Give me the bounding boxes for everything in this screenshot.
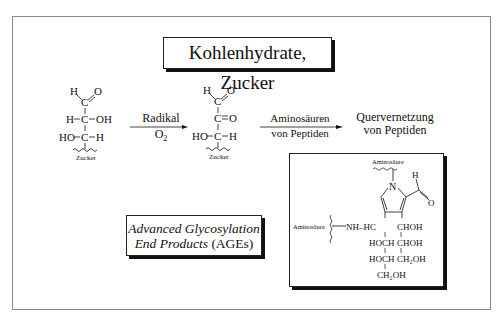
svg-text:C: C (81, 131, 88, 143)
svg-text:H: H (229, 130, 237, 142)
svg-text:O: O (227, 84, 235, 96)
result-label: Quervernetzung von Peptiden (350, 111, 440, 137)
product-structure: Aminosäure N H O Aminosäure NH–HC CHOH C… (289, 153, 444, 287)
svg-text:HOCH: HOCH (369, 238, 395, 248)
svg-text:C: C (81, 113, 88, 125)
arrow2-bottom-label: von Peptiden (262, 127, 338, 139)
svg-text:H: H (412, 170, 419, 180)
arrow1-bottom-label: O2 (135, 127, 187, 143)
molecule-sugar: H C O H C OH HO C H Zucker (55, 84, 125, 164)
ages-line2-italic: End Products (135, 236, 208, 251)
svg-text:C: C (214, 95, 221, 107)
svg-text:C: C (214, 112, 221, 124)
svg-text:OH: OH (96, 113, 112, 125)
svg-text:CHOH: CHOH (397, 238, 423, 248)
svg-text:CHOH: CHOH (397, 222, 423, 232)
svg-text:CH₂OH: CH₂OH (377, 270, 406, 280)
svg-text:HO: HO (59, 131, 75, 143)
svg-text:C: C (81, 96, 88, 108)
svg-text:Zucker: Zucker (76, 154, 96, 162)
svg-text:NH–HC: NH–HC (346, 222, 376, 232)
molecule-dicarbonyl: H C O C O HO C H Zucker (188, 84, 258, 164)
title-box: Kohlenhydrate, Zucker (163, 37, 332, 69)
svg-text:Aminosäure: Aminosäure (293, 223, 325, 230)
svg-text:H: H (96, 131, 104, 143)
svg-text:Aminosäure: Aminosäure (372, 158, 404, 165)
svg-text:O: O (229, 112, 237, 124)
svg-text:O: O (94, 85, 102, 97)
svg-text:O: O (428, 198, 435, 208)
ages-box: Advanced Glycosylation End Products (AGE… (126, 215, 262, 256)
ages-line2-plain: (AGEs) (208, 236, 253, 251)
svg-text:HO: HO (192, 130, 208, 142)
ages-line1: Advanced Glycosylation (128, 221, 260, 236)
svg-text:CH₂OH: CH₂OH (397, 254, 426, 264)
svg-text:HOCH: HOCH (369, 254, 395, 264)
arrow2-top-label: Aminosäuren (262, 112, 338, 124)
svg-text:Zucker: Zucker (209, 153, 229, 161)
svg-text:C: C (214, 130, 221, 142)
svg-text:N: N (389, 181, 396, 192)
svg-text:H: H (66, 113, 74, 125)
